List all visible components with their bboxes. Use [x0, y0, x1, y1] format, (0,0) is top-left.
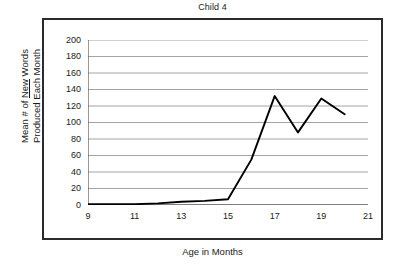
chart-title: Child 4: [42, 2, 383, 12]
chart-figure: Child 4 Mean # of New Words Produced Eac…: [0, 0, 396, 270]
y-axis-tick-label: 140: [53, 85, 81, 94]
y-axis-tick-label: 120: [53, 102, 81, 111]
x-axis-tick-label: 11: [124, 212, 146, 221]
y-axis-tick-label: 60: [53, 151, 81, 160]
x-axis-tick-label: 21: [357, 212, 379, 221]
x-axis-tick-label: 13: [170, 212, 192, 221]
y-axis-title-line-1-pre: Mean # of: [19, 98, 30, 143]
plot-area: 200180160140120100806040200 911131517192…: [88, 40, 368, 205]
data-series-line: [88, 96, 345, 204]
gridlines: [88, 40, 368, 205]
plot-svg: [88, 40, 368, 205]
y-axis-tick-label: 100: [53, 118, 81, 127]
y-axis-title-line-1-post: Words: [19, 49, 30, 79]
x-axis-tick-label: 17: [264, 212, 286, 221]
x-axis-tick-label: 9: [77, 212, 99, 221]
x-axis-title: Age in Months: [42, 246, 383, 257]
y-axis-tick-label: 40: [53, 168, 81, 177]
y-axis-title-underlined-word: New: [19, 79, 30, 98]
y-axis-tick-label: 0: [53, 201, 81, 210]
y-axis-tick-label: 80: [53, 135, 81, 144]
y-axis-tick-label: 160: [53, 69, 81, 78]
y-axis-title-line-2: Produced Each Month: [31, 11, 43, 181]
y-axis-title-line-1: Mean # of New Words: [19, 11, 31, 181]
x-axis-tick-label: 19: [310, 212, 332, 221]
y-axis-tick-label: 20: [53, 184, 81, 193]
y-axis-tick-label: 200: [53, 36, 81, 45]
y-axis-title: Mean # of New Words Produced Each Month: [19, 11, 43, 181]
y-axis-tick-label: 180: [53, 52, 81, 61]
x-axis-tick-label: 15: [217, 212, 239, 221]
